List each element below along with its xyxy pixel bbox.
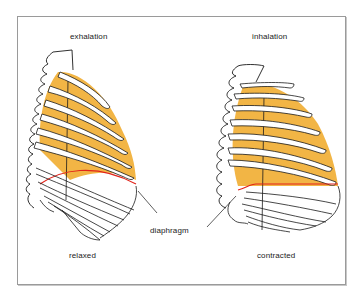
diaphragm-label: diaphragm — [150, 226, 189, 235]
exhalation-label: exhalation — [70, 32, 107, 41]
inhalation-label: inhalation — [252, 32, 287, 41]
contracted-label: contracted — [257, 251, 295, 260]
relaxed-label: relaxed — [69, 251, 96, 260]
right-ribcage — [207, 65, 340, 233]
ribcage-illustration — [0, 0, 359, 296]
left-ribcage — [26, 50, 157, 240]
